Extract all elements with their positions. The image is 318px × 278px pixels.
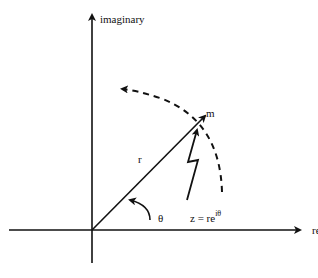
real-axis-label: real (312, 224, 318, 236)
complex-plane-diagram: real imaginary r m θ z = reiθ (0, 0, 318, 278)
rotation-arc-dashed (122, 89, 222, 192)
angle-arc (130, 200, 150, 220)
angle-label-theta: θ (158, 212, 163, 224)
point-label-m: m (206, 107, 215, 119)
magnitude-label-r: r (138, 153, 142, 165)
equation-pointer-arrow (187, 130, 198, 200)
imaginary-axis-label: imaginary (100, 13, 145, 25)
polar-form-equation: z = reiθ (190, 209, 221, 224)
